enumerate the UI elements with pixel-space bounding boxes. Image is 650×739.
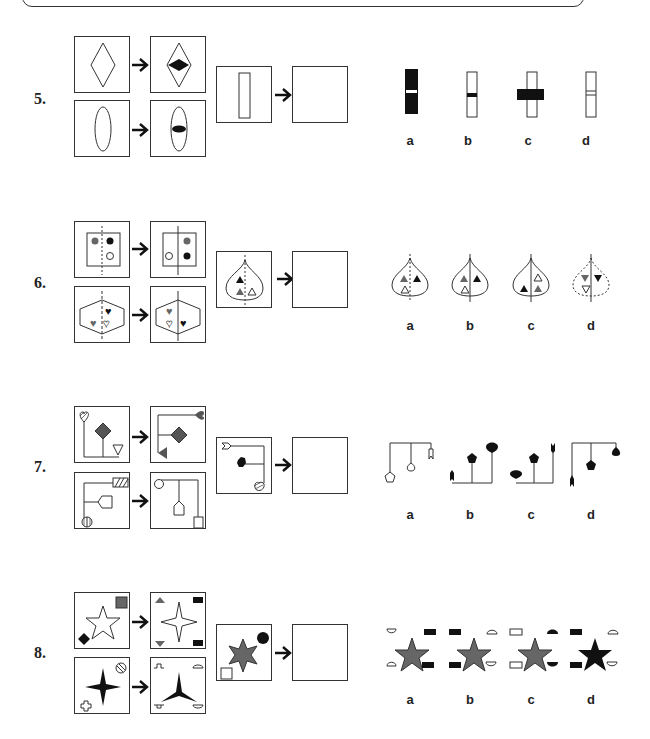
option-label: d — [581, 692, 601, 707]
q5-answer-box[interactable] — [292, 66, 348, 123]
q5-example2-output — [150, 100, 206, 157]
arrow-icon — [131, 58, 149, 72]
q6-option-b[interactable] — [442, 250, 498, 320]
arrow-icon — [131, 242, 149, 256]
option-label: d — [581, 318, 601, 333]
q7-option-d[interactable] — [567, 433, 623, 503]
q7-example2-input — [74, 472, 130, 529]
option-label: b — [458, 133, 478, 148]
arrow-icon — [131, 615, 149, 629]
q8-option-b[interactable] — [444, 624, 500, 694]
svg-text:♥: ♥ — [103, 317, 110, 329]
option-label: c — [521, 692, 541, 707]
arrow-icon — [131, 430, 149, 444]
q6-option-c[interactable] — [503, 250, 559, 320]
q8-option-d[interactable] — [565, 624, 621, 694]
option-label: c — [521, 318, 541, 333]
arrow-icon — [274, 458, 292, 472]
arrow-icon — [274, 88, 292, 102]
q7-example1-input — [74, 406, 130, 463]
svg-text:♥: ♥ — [180, 317, 187, 329]
svg-text:♥: ♥ — [166, 305, 173, 317]
option-label: c — [521, 507, 541, 522]
option-label: a — [400, 692, 420, 707]
svg-text:♥: ♥ — [90, 317, 97, 329]
q7-option-b[interactable] — [446, 433, 502, 503]
q7-given — [216, 437, 272, 494]
option-label: d — [576, 133, 596, 148]
q5-option-b[interactable] — [457, 65, 513, 135]
option-label: b — [460, 318, 480, 333]
q8-example1-input — [74, 592, 130, 649]
q7-option-a[interactable] — [382, 433, 438, 503]
option-label: b — [460, 692, 480, 707]
question-number: 7. — [34, 458, 46, 476]
question-number: 5. — [34, 90, 46, 108]
q5-given — [216, 66, 272, 123]
q5-option-c[interactable] — [515, 65, 571, 135]
q8-answer-box[interactable] — [292, 624, 348, 681]
q7-option-c[interactable] — [506, 433, 562, 503]
option-label: a — [400, 507, 420, 522]
option-label: b — [460, 507, 480, 522]
q8-example2-output — [150, 657, 206, 714]
q8-option-a[interactable] — [382, 624, 438, 694]
header-frame — [22, 0, 584, 7]
q7-answer-box[interactable] — [292, 437, 348, 494]
q8-given — [216, 624, 272, 681]
q5-option-d[interactable] — [576, 65, 632, 135]
arrow-icon — [131, 308, 149, 322]
svg-text:♥: ♥ — [166, 317, 173, 329]
q5-example2-input — [74, 100, 130, 157]
q5-option-a[interactable] — [397, 65, 453, 135]
q7-example2-output — [150, 472, 206, 529]
arrow-icon — [131, 123, 149, 137]
arrow-icon — [131, 494, 149, 508]
option-label: a — [400, 318, 420, 333]
arrow-icon — [274, 646, 292, 660]
arrow-icon — [131, 680, 149, 694]
q6-answer-box[interactable] — [292, 251, 348, 308]
q6-example2-input: ♥♥♥ — [74, 286, 130, 343]
q8-example1-output — [150, 592, 206, 649]
q6-example1-input — [74, 221, 130, 278]
option-label: d — [581, 507, 601, 522]
option-label: c — [518, 133, 538, 148]
q6-example1-output — [150, 221, 206, 278]
q8-option-c[interactable] — [505, 624, 561, 694]
q6-option-d[interactable] — [563, 250, 619, 320]
q6-given — [216, 251, 272, 308]
q8-example2-input — [74, 657, 130, 714]
q6-example2-output: ♥♥♥ — [150, 286, 206, 343]
svg-text:♥: ♥ — [105, 305, 112, 317]
question-number: 6. — [34, 274, 46, 292]
q7-example1-output — [150, 406, 206, 463]
question-number: 8. — [34, 644, 46, 662]
option-label: a — [400, 133, 420, 148]
q6-option-a[interactable] — [382, 250, 438, 320]
q5-example1-input — [74, 36, 130, 93]
q5-example1-output — [150, 36, 206, 93]
